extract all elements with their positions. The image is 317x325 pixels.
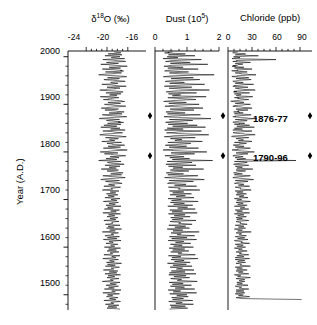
plot-canvas bbox=[0, 0, 317, 325]
paleoclimate-ice-core-figure: δ18O (‰) Dust (105) Chloride (ppb) Year … bbox=[0, 0, 317, 325]
